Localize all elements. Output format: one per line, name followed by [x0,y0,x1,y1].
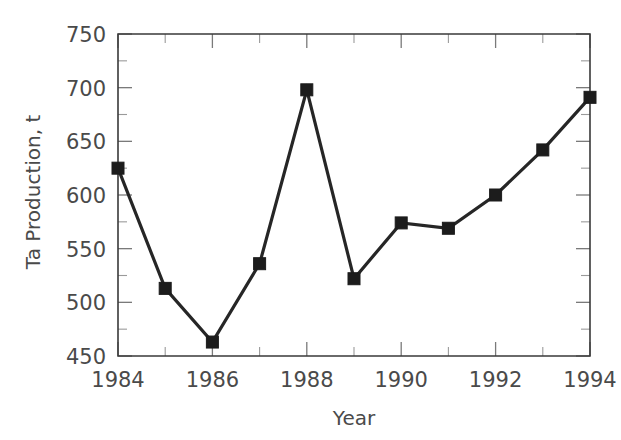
y-tick-label: 700 [66,77,106,101]
data-point-marker: 1987: 536 [254,258,266,270]
x-tick-label: 1994 [563,368,616,392]
data-point-marker: 1991: 569 [442,222,454,234]
data-point-marker: 1990: 574 [395,217,407,229]
x-tick-label: 1992 [469,368,522,392]
line-chart: 1984: 6251985: 5131986: 4631987: 5361988… [0,0,621,440]
data-point-marker: 1988: 698 [301,84,313,96]
data-point-marker: 1986: 463 [206,336,218,348]
data-point-marker: 1992: 600 [490,189,502,201]
y-tick-label: 550 [66,238,106,262]
x-axis-title: Year [332,406,376,430]
data-point-marker: 1994: 691 [584,91,596,103]
data-point-marker: 1989: 522 [348,273,360,285]
y-tick-label: 650 [66,130,106,154]
y-axis-title: Ta Production, t [21,115,45,271]
y-tick-label: 450 [66,345,106,369]
data-point-marker: 1985: 513 [159,282,171,294]
data-point-marker: 1993: 642 [537,144,549,156]
y-tick-label: 750 [66,23,106,47]
x-tick-label: 1986 [186,368,239,392]
y-tick-label: 500 [66,291,106,315]
x-tick-label: 1984 [91,368,144,392]
chart-container: 1984: 6251985: 5131986: 4631987: 5361988… [0,0,621,440]
data-point-marker: 1984: 625 [112,162,124,174]
y-tick-label: 600 [66,184,106,208]
x-tick-label: 1990 [374,368,427,392]
x-tick-label: 1988 [280,368,333,392]
